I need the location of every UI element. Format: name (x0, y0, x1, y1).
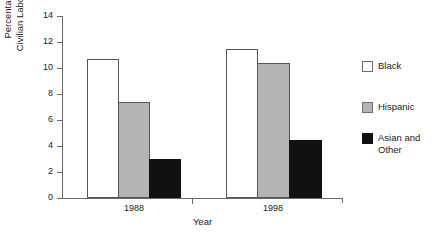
legend-label-asian-other-line1: Asian and (378, 132, 420, 143)
y-tick-label-2: 2 (48, 165, 53, 178)
legend-item-asian-other: Asian and Other (362, 132, 420, 155)
bar-1988-black (87, 59, 119, 198)
legend-item-hispanic: Hispanic (362, 101, 414, 113)
legend-swatch-asian-other-icon (362, 133, 373, 144)
bar-chart-figure: Percentage of Civilian Labor Force 0 2 4… (0, 0, 436, 240)
x-axis-mid-tick (192, 199, 193, 204)
legend-label-hispanic: Hispanic (378, 101, 414, 113)
y-tick-label-10: 10 (43, 61, 53, 74)
legend-label-asian-other: Asian and Other (378, 132, 420, 155)
x-axis-end-tick (342, 198, 343, 203)
bar-1998-hispanic (257, 63, 290, 198)
y-tick-label-14: 14 (43, 9, 53, 22)
bar-1998-asian-other (289, 140, 322, 199)
y-axis-title-line1: Percentage of (2, 0, 14, 74)
legend-swatch-hispanic-icon (362, 102, 373, 113)
y-tick-label-6: 6 (48, 113, 53, 126)
legend-item-black: Black (362, 60, 401, 72)
x-axis-title: Year (62, 216, 343, 227)
y-tick-label-8: 8 (48, 87, 53, 100)
y-tick-label-0: 0 (48, 191, 53, 204)
legend-label-asian-other-line2: Other (378, 144, 402, 155)
bar-1998-black (226, 49, 258, 199)
x-tick-label-1998: 1998 (243, 202, 303, 215)
legend-label-black: Black (378, 60, 401, 72)
y-tick-label-4: 4 (48, 139, 53, 152)
bar-1988-hispanic (118, 102, 150, 198)
y-axis-title-line2: Civilian Labor Force (14, 0, 26, 74)
x-axis-line (62, 198, 343, 199)
bar-1988-asian-other (149, 159, 181, 198)
y-axis-title: Percentage of Civilian Labor Force (2, 0, 32, 74)
x-tick-label-1988: 1988 (104, 202, 164, 215)
plot-area (62, 16, 342, 198)
y-tick-label-12: 12 (43, 35, 53, 48)
legend-swatch-black-icon (362, 61, 373, 72)
